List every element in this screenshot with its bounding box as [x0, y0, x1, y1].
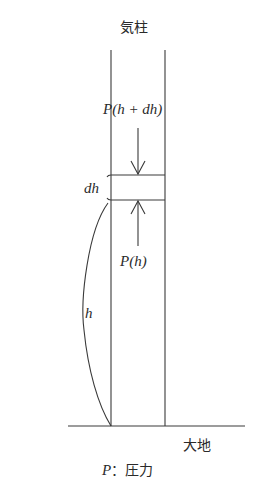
legend-text: ：圧力 [111, 462, 153, 478]
ground-label: 大地 [183, 438, 211, 452]
diagram-title: 気柱 [120, 20, 148, 34]
pressure-top-label: P(h + dh) [103, 102, 162, 117]
legend-label: P：圧力 [102, 463, 153, 478]
dh-bracket-icon [107, 175, 111, 200]
height-label: h [85, 304, 93, 323]
air-column-diagram: 気柱 P(h + dh) dh P(h) h 大地 P：圧力 [0, 0, 265, 483]
pressure-bottom-label: P(h) [120, 254, 147, 269]
arrow-down-icon [131, 128, 145, 174]
arrow-up-icon [131, 201, 145, 246]
legend-symbol: P [102, 462, 111, 478]
diagram-canvas [0, 0, 265, 483]
slab-thickness-label: dh [84, 181, 99, 196]
